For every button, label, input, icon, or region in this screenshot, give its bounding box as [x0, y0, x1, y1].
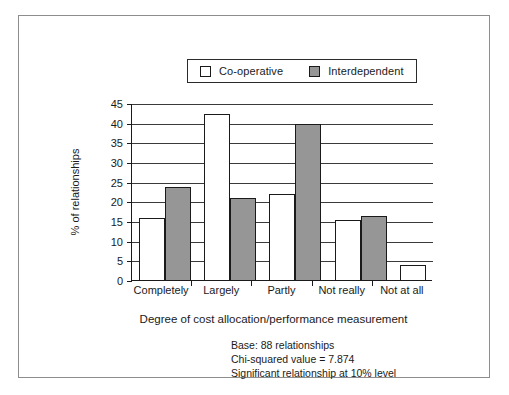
y-tick-label: 20	[111, 196, 123, 208]
chart-legend: Co-operative Interdependent	[187, 59, 417, 83]
chart-footnotes: Base: 88 relationshipsChi-squared value …	[231, 338, 396, 380]
y-tick-label: 10	[111, 236, 123, 248]
plot-area: 051015202530354045	[131, 104, 432, 281]
footnote-line: Significant relationship at 10% level	[231, 366, 396, 380]
bar-interdependent-not-really	[361, 216, 387, 281]
bars-layer	[132, 104, 433, 281]
y-tick-label: 40	[111, 118, 123, 130]
bar-group	[335, 104, 387, 281]
bar-interdependent-completely	[165, 187, 191, 281]
figure-frame: Co-operative Interdependent % of relatio…	[18, 15, 490, 378]
y-tick-label: 25	[111, 177, 123, 189]
bar-group	[400, 104, 426, 281]
y-tick-label: 5	[117, 255, 123, 267]
y-tick-label: 45	[111, 98, 123, 110]
y-tick-label: 30	[111, 157, 123, 169]
bar-co-operative-completely	[139, 218, 165, 281]
legend-label-interdependent: Interdependent	[328, 65, 403, 77]
y-axis-title: % of relationships	[69, 149, 81, 236]
legend-entry-interdependent: Interdependent	[309, 65, 403, 77]
x-tick-label: Completely	[131, 284, 191, 296]
x-axis-title: Degree of cost allocation/performance me…	[19, 313, 509, 325]
footnote-line: Base: 88 relationships	[231, 338, 396, 352]
bar-interdependent-partly	[295, 124, 321, 281]
square-outline-icon	[200, 66, 211, 77]
bar-group	[139, 104, 191, 281]
bar-group	[269, 104, 321, 281]
footnote-line: Chi-squared value = 7.874	[231, 352, 396, 366]
legend-label-cooperative: Co-operative	[219, 65, 283, 77]
y-tick-label: 15	[111, 216, 123, 228]
legend-entry-cooperative: Co-operative	[200, 65, 283, 77]
x-tick-label: Largely	[191, 284, 251, 296]
bar-co-operative-not-really	[335, 220, 361, 281]
y-tick-label: 35	[111, 137, 123, 149]
x-axis-tick-labels: CompletelyLargelyPartlyNot reallyNot at …	[131, 284, 432, 296]
square-filled-icon	[309, 66, 320, 77]
bar-group	[204, 104, 256, 281]
bar-co-operative-not-at-all	[400, 265, 426, 281]
x-tick-label: Not really	[312, 284, 372, 296]
x-tick-label: Not at all	[372, 284, 432, 296]
bar-co-operative-largely	[204, 114, 230, 281]
y-tick-label: 0	[117, 275, 123, 287]
x-tick-label: Partly	[251, 284, 311, 296]
bar-interdependent-largely	[230, 198, 256, 281]
bar-co-operative-partly	[269, 194, 295, 281]
